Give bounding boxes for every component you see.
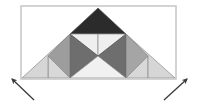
geometric-diagram bbox=[0, 0, 198, 105]
figure-canvas bbox=[0, 0, 198, 105]
